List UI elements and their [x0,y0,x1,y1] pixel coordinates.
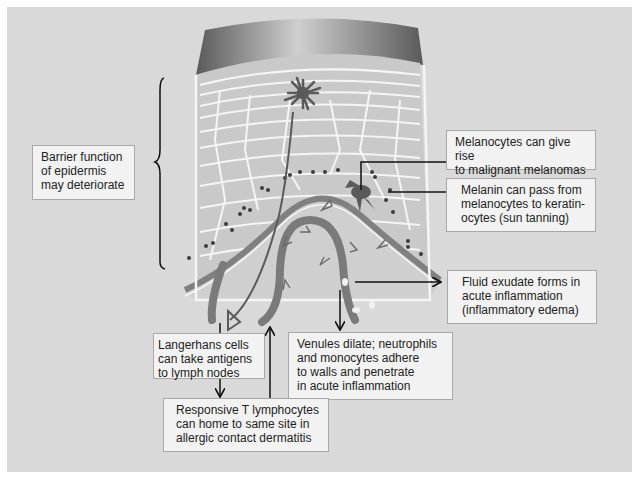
label-melanin: Melanin can pass from melanocytes to ker… [446,178,596,232]
label-fluid-exudate: Fluid exudate forms in acute inflammatio… [447,270,597,324]
epidermis-brace [155,78,165,269]
label-venules: Venules dilate; neutrophils and monocyte… [288,332,453,400]
label-t-lymphocytes: Responsive T lymphocytes can home to sam… [163,398,329,452]
arrow-icon [228,311,240,330]
label-melanocytes: Melanocytes can give rise to malignant m… [446,130,596,170]
label-langerhans: Langerhans cells can take antigens to ly… [153,333,265,379]
label-barrier-function: Barrier function of epidermis may deteri… [32,145,135,200]
